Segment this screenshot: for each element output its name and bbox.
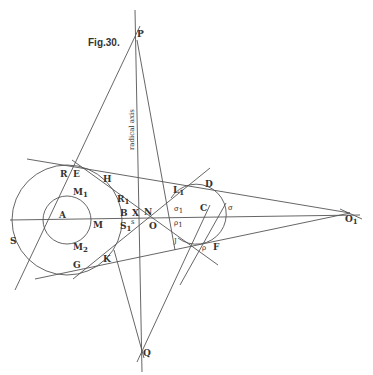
label-H: H [103,174,112,184]
label-P: P [137,29,144,39]
label-G: G [73,260,81,270]
geometry-figure: Fig.30. radical axis P Q R E H S A M M1 … [0,0,373,375]
label-S1: S1 [120,221,132,233]
label-C: C [200,203,207,213]
label-sigma1: σ1 [174,205,183,215]
label-Q: Q [143,348,151,358]
radical-axis-label: radical axis [128,109,136,150]
label-S: S [10,236,17,246]
label-sigma: σ [228,204,233,212]
label-O: O [149,221,157,231]
label-L: L1 [173,185,184,197]
label-A: A [58,210,67,220]
small-left-circle [43,196,91,244]
label-X: X [132,208,139,218]
label-D: D [205,179,213,189]
label-M: M [93,220,103,230]
label-B: B [120,208,128,218]
label-rho: ρ [202,244,206,252]
label-R: R [60,169,68,179]
label-F: F [213,242,220,252]
line-Q-D [137,205,210,362]
label-J: J [173,237,177,245]
line-Q-R1 [114,250,144,358]
label-E: E [73,169,80,179]
label-K: K [103,254,112,264]
label-N: N [144,207,152,217]
label-rho1: ρ1 [174,219,183,229]
label-s: s [131,218,135,226]
label-M2: M2 [73,242,88,254]
figure-title: Fig.30. [88,37,120,48]
tangent-top [27,159,350,213]
label-R1: R1 [117,194,129,206]
